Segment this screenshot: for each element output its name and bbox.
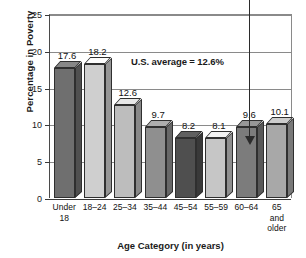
bar-value-label: 18.2 xyxy=(76,46,118,57)
x-tick-label-line: 18 xyxy=(45,213,83,224)
pointer-arrow-head xyxy=(245,136,255,145)
bar-side-face xyxy=(257,121,264,198)
bar-side-face xyxy=(75,62,82,198)
bar-side-face xyxy=(105,58,112,198)
x-tick-label-line: older xyxy=(258,223,296,234)
us-average-annotation: U.S. average = 12.6% xyxy=(131,56,224,67)
bar-front-face xyxy=(84,64,105,198)
bar xyxy=(205,138,226,198)
y-tick-mark xyxy=(45,199,50,200)
bar xyxy=(114,105,135,198)
bar xyxy=(266,124,287,198)
y-tick-label: 20 xyxy=(32,47,42,57)
bar-value-label: 12.6 xyxy=(107,87,149,98)
x-axis-title: Age Category (in years) xyxy=(49,240,292,251)
bar-side-face xyxy=(287,117,294,198)
y-tick-label: 15 xyxy=(32,84,42,94)
poverty-by-age-bar-chart: Percentage in Poverty 0510152025 17.618.… xyxy=(0,0,306,258)
bar xyxy=(54,68,75,198)
x-tick-label-line: 65 xyxy=(258,202,296,213)
bar-front-face xyxy=(114,105,135,198)
y-tick-label: 10 xyxy=(32,120,42,130)
bar-front-face xyxy=(205,138,226,198)
y-tick-label: 0 xyxy=(37,194,42,204)
bar-side-face xyxy=(166,120,173,198)
x-tick-label-line: and xyxy=(258,213,296,224)
bar-front-face xyxy=(175,138,196,198)
x-tick-label: 65andolder xyxy=(258,202,296,234)
bar-series: 17.618.212.69.78.28.19.610.1 xyxy=(50,15,291,198)
bar-side-face xyxy=(196,131,203,198)
plot-area: 0510152025 17.618.212.69.78.28.19.610.1 xyxy=(49,14,292,198)
y-tick-label: 5 xyxy=(37,157,42,167)
bar-front-face xyxy=(54,68,75,198)
bar xyxy=(84,64,105,198)
bar-value-label: 8.1 xyxy=(198,120,240,131)
y-tick-label: 25 xyxy=(32,10,42,20)
bar xyxy=(145,127,166,198)
bar-front-face xyxy=(145,127,166,198)
bar-side-face xyxy=(226,132,233,198)
bar-value-label: 10.1 xyxy=(259,106,301,117)
pointer-arrow-line xyxy=(249,0,250,139)
x-axis-line xyxy=(50,199,291,200)
bar-value-label: 9.7 xyxy=(137,109,179,120)
bar-front-face xyxy=(266,124,287,198)
bar xyxy=(175,138,196,198)
